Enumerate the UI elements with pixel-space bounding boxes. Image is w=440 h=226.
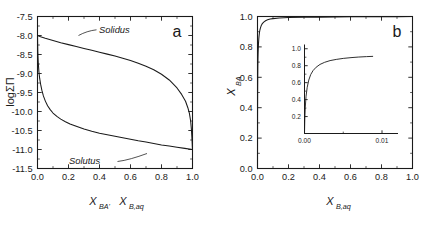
svg-text:-9.0: -9.0	[17, 69, 33, 79]
panel-b-xlabel-sub: B,aq	[336, 202, 351, 211]
panel-a-x-axis-title: X BA' X B,aq	[88, 195, 143, 211]
svg-text:-11.0: -11.0	[12, 145, 32, 155]
svg-text:1.0: 1.0	[186, 172, 199, 182]
svg-text:0.4: 0.4	[240, 103, 253, 113]
svg-text:-7.5: -7.5	[17, 12, 33, 22]
svg-text:0.2: 0.2	[240, 133, 253, 143]
svg-text:0.00: 0.00	[298, 137, 311, 144]
panel-a-plot-area: 0.00.20.40.60.81.0-7.5-8.0-8.5-9.0-9.5-1…	[12, 12, 199, 182]
panel-b-letter: b	[393, 23, 402, 40]
svg-text:0.4: 0.4	[313, 172, 326, 182]
panel-b-y-axis-title: X BA	[225, 76, 243, 96]
svg-text:0.4: 0.4	[292, 96, 301, 103]
svg-text:0.01: 0.01	[376, 137, 389, 144]
panel-b-ylabel-base: X	[225, 88, 237, 97]
curve-solutus	[38, 36, 193, 150]
svg-text:-9.5: -9.5	[17, 88, 33, 98]
svg-text:0.2: 0.2	[292, 113, 301, 120]
figure-container: 0.00.20.40.60.81.0-7.5-8.0-8.5-9.0-9.5-1…	[0, 0, 440, 226]
svg-text:-10.0: -10.0	[12, 107, 33, 117]
panel-a-xlabel-part1-base: X	[88, 195, 97, 207]
svg-text:1.0: 1.0	[240, 12, 253, 22]
panel-a: 0.00.20.40.60.81.0-7.5-8.0-8.5-9.0-9.5-1…	[0, 0, 220, 226]
svg-text:0.6: 0.6	[124, 172, 137, 182]
panel-a-tick-labels: 0.00.20.40.60.81.0-7.5-8.0-8.5-9.0-9.5-1…	[12, 12, 199, 182]
panel-b-ticks	[258, 17, 413, 169]
panel-a-xlabel-part1-sub: BA'	[99, 202, 111, 211]
svg-text:0.8: 0.8	[240, 42, 253, 52]
curve-xba-inset	[305, 56, 373, 133]
solutus-label: Solutus	[69, 155, 101, 166]
svg-text:-8.0: -8.0	[17, 31, 33, 41]
svg-text:0.8: 0.8	[155, 172, 168, 182]
svg-text:1.0: 1.0	[406, 172, 419, 182]
panel-b-xlabel-base: X	[325, 195, 334, 207]
svg-text:0.8: 0.8	[375, 172, 388, 182]
svg-text:0.2: 0.2	[282, 172, 295, 182]
panel-a-ylabel: logΣΠ	[4, 77, 16, 106]
svg-text:0.2: 0.2	[62, 172, 75, 182]
solidus-leader-line	[79, 30, 97, 36]
panel-a-xlabel-part2-sub: B,aq	[129, 202, 144, 211]
panel-b-inset: 0.20.40.60.81.00.000.01	[292, 45, 398, 144]
svg-text:0.8: 0.8	[292, 62, 301, 69]
curve-solidus	[38, 36, 193, 150]
svg-text:1.0: 1.0	[292, 45, 301, 52]
svg-text:-8.5: -8.5	[17, 50, 33, 60]
panel-a-letter: a	[173, 23, 182, 40]
svg-text:-10.5: -10.5	[12, 126, 33, 136]
panel-a-y-axis-title: logΣΠ	[4, 77, 16, 106]
svg-text:0.6: 0.6	[292, 79, 301, 86]
panel-b-plot-area: 0.00.20.40.60.81.00.00.20.40.60.81.0 b	[240, 12, 419, 182]
svg-text:0.6: 0.6	[344, 172, 357, 182]
inset-ticks	[305, 49, 383, 134]
panel-b-x-axis-title: X B,aq	[325, 195, 350, 211]
panel-a-xlabel-part2-base: X	[118, 195, 127, 207]
svg-text:-11.5: -11.5	[12, 164, 32, 174]
svg-text:0.0: 0.0	[251, 172, 264, 182]
panel-b-ylabel-sub: BA	[234, 76, 243, 86]
solutus-leader-line	[118, 154, 148, 162]
curve-xba-main	[258, 17, 413, 169]
panel-b: 0.00.20.40.60.81.00.00.20.40.60.81.0 b 0…	[220, 0, 440, 226]
panel-b-frame	[258, 17, 413, 169]
svg-text:0.4: 0.4	[93, 172, 106, 182]
svg-text:0.0: 0.0	[240, 164, 253, 174]
solidus-label: Solidus	[99, 24, 130, 35]
svg-text:0.0: 0.0	[31, 172, 44, 182]
